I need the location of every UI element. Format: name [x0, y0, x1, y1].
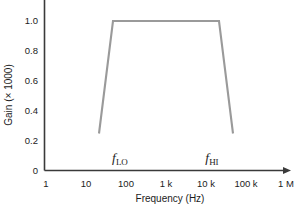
y-tick-label-0-2: 0.2 [25, 135, 38, 146]
x-tick-label-100k: 100 k [234, 178, 257, 189]
y-axis-title: Gain (× 1000) [3, 64, 14, 125]
y-tick-label-0-8: 0.8 [25, 45, 38, 56]
x-axis-title: Frequency (Hz) [136, 193, 205, 204]
annotation-f-lo-subscript: LO [116, 157, 128, 167]
annotation-f-lo: fLO [112, 150, 128, 167]
x-tick-label-1k: 1 k [160, 178, 173, 189]
y-tick-label-0-4: 0.4 [25, 105, 38, 116]
y-tick-label-0: 0 [33, 165, 38, 176]
y-tick-label-0-6: 0.6 [25, 75, 38, 86]
chart-canvas: 0 0.2 0.4 0.6 0.8 1.0 1 10 100 1 k 10 k … [0, 0, 299, 205]
annotation-f-hi-subscript: HI [209, 157, 219, 167]
x-tick-label-10: 10 [81, 178, 92, 189]
x-tick-label-10k: 10 k [197, 178, 215, 189]
gain-response-curve [99, 21, 233, 134]
x-tick-label-1: 1 [43, 178, 48, 189]
x-tick-label-1M: 1 M [278, 178, 294, 189]
x-axis-arrow-icon [283, 167, 291, 174]
y-tick-label-1-0: 1.0 [25, 15, 38, 26]
x-tick-label-100: 100 [118, 178, 134, 189]
bandpass-gain-chart: 0 0.2 0.4 0.6 0.8 1.0 1 10 100 1 k 10 k … [0, 0, 299, 205]
annotation-f-hi: fHI [205, 150, 218, 167]
